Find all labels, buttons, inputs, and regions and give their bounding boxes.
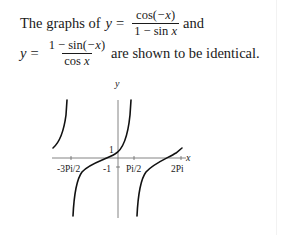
y-tick-label-1: 1 xyxy=(109,145,114,155)
y-axis-label: y xyxy=(114,78,120,89)
x-tick-label: -3Pi/2 xyxy=(57,164,80,174)
x-tick-label: Pi/2 xyxy=(126,164,142,174)
page-edge xyxy=(276,0,277,235)
x-tick-label: -1 xyxy=(103,164,111,174)
x-tick-label: 2Pi xyxy=(171,164,184,174)
x-axis-label: x xyxy=(185,152,191,163)
function-graph: y x 1 -3Pi/2 -1 Pi/2 2Pi xyxy=(0,0,288,235)
curve-branch-left xyxy=(53,100,67,148)
